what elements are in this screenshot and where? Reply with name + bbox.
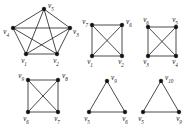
graph-4: v9v8v6v7: [18, 72, 68, 125]
vertex-label: v1: [21, 57, 27, 67]
vertex-label: v5: [172, 16, 178, 26]
graph-vertex: [26, 78, 30, 82]
vertex-label: v7: [54, 115, 60, 125]
graph-vertex: [177, 110, 181, 114]
graph-5: v9v5v6: [84, 74, 128, 125]
vertex-label: v9: [111, 74, 117, 84]
vertex-label: v4: [3, 28, 9, 38]
graph-vertex: [141, 110, 145, 114]
vertex-label: v6: [23, 115, 29, 125]
graph-figure: v5v4v3v1v2v7v6v1v2v6v5v3v4v9v8v6v7v9v5v6…: [0, 0, 189, 130]
graph-vertex: [87, 110, 91, 114]
vertex-label: v3: [73, 28, 79, 38]
vertex-label: v6: [143, 16, 149, 26]
graph-edge: [26, 9, 44, 54]
graph-svg-canvas: v5v4v3v1v2v7v6v1v2v6v5v3v4v9v8v6v7v9v5v6…: [0, 0, 189, 130]
graph-edge: [44, 9, 70, 28]
graph-vertex: [123, 110, 127, 114]
graph-1: v5v4v3v1v2: [3, 2, 79, 67]
graph-6: v10v5v9: [138, 74, 182, 125]
graph-vertex: [24, 52, 28, 56]
graph-vertex: [174, 25, 178, 29]
vertex-label: v6: [122, 115, 128, 125]
vertex-label: v10: [165, 74, 174, 84]
graph-vertex: [146, 25, 150, 29]
graph-vertex: [56, 110, 60, 114]
graph-edge: [89, 81, 107, 112]
graph-vertex: [56, 78, 60, 82]
graph-3: v6v5v3v4: [143, 16, 178, 68]
graph-vertex: [159, 79, 163, 83]
graph-vertex: [68, 26, 72, 30]
vertex-label: v7: [82, 18, 88, 28]
graph-vertex: [55, 52, 59, 56]
graph-edge: [143, 81, 161, 112]
vertex-label: v8: [62, 72, 68, 82]
graph-vertex: [26, 110, 30, 114]
vertex-label: v1: [87, 58, 93, 68]
vertex-label: v5: [48, 2, 54, 12]
graph-vertex: [120, 23, 124, 27]
vertex-label: v9: [176, 115, 182, 125]
vertex-label: v2: [118, 58, 124, 68]
vertex-label: v6: [126, 18, 132, 28]
vertex-label: v9: [18, 72, 24, 82]
vertex-label: v5: [84, 115, 90, 125]
graph-vertex: [90, 23, 94, 27]
graph-edge: [161, 81, 179, 112]
graph-vertex: [90, 54, 94, 58]
vertex-label: v2: [53, 57, 59, 67]
graph-vertex: [105, 79, 109, 83]
graph-vertex: [146, 54, 150, 58]
vertex-label: v4: [172, 58, 178, 68]
graphs-root: v5v4v3v1v2v7v6v1v2v6v5v3v4v9v8v6v7v9v5v6…: [3, 2, 182, 125]
graph-2: v7v6v1v2: [82, 18, 132, 68]
vertex-label: v5: [138, 115, 144, 125]
graph-edge: [13, 9, 44, 28]
vertex-label: v3: [143, 58, 149, 68]
graph-vertex: [11, 26, 15, 30]
graph-edge: [107, 81, 125, 112]
graph-vertex: [42, 7, 46, 11]
